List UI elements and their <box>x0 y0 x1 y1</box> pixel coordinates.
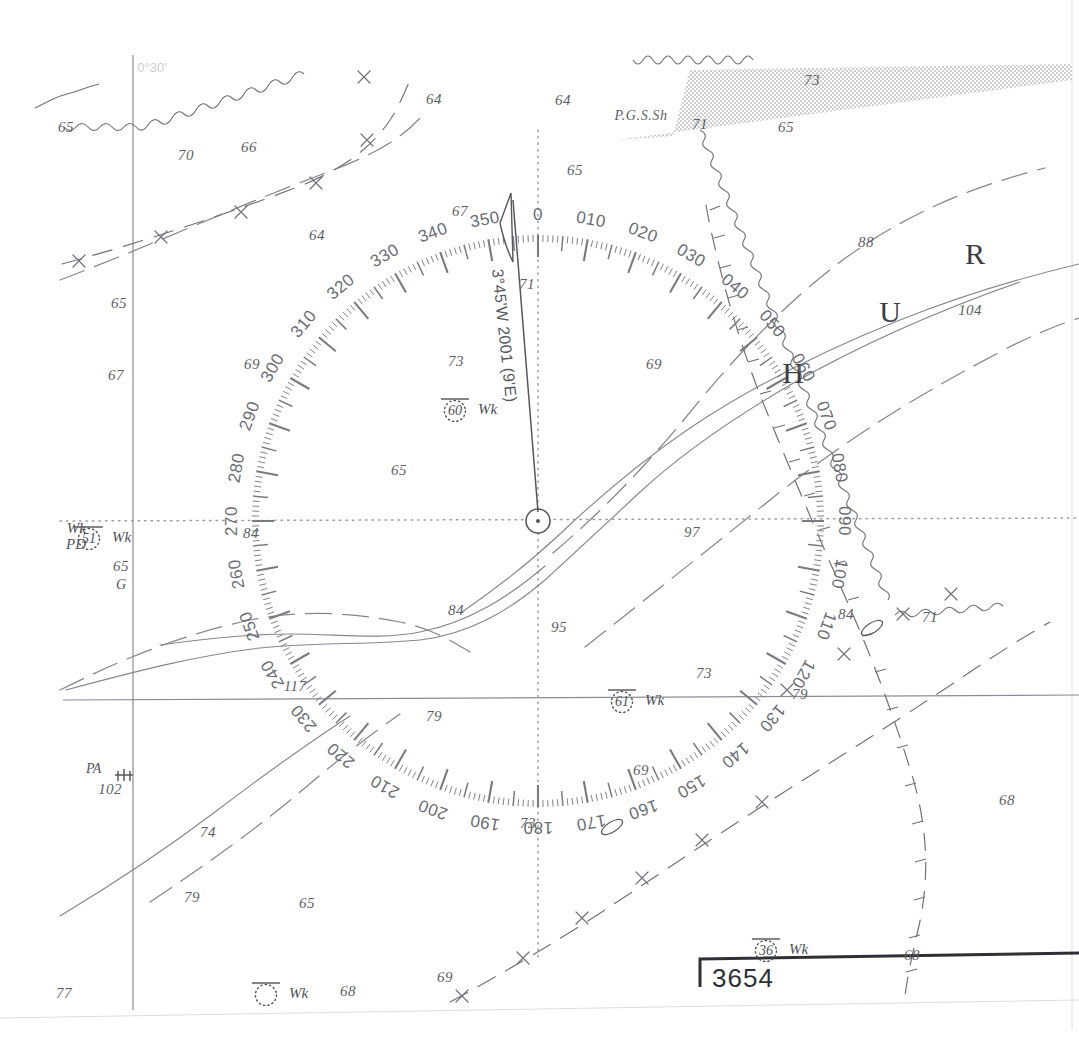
wreck-symbol: Wk <box>246 980 308 1006</box>
solid-depth-contours <box>60 264 1079 916</box>
sounding-depth: 95 <box>551 619 567 636</box>
sounding-depth: 84 <box>838 606 854 623</box>
nautical-chart-canvas: H U R P.G.S.Sh 0°30' 3°45'W 2001 (9'E) P… <box>0 0 1079 1063</box>
chart-vector-layer <box>0 0 1079 1063</box>
wreck-symbol: 61Wk <box>602 687 664 713</box>
sounding-depth: 73 <box>804 72 820 89</box>
sounding-depth: 65 <box>567 162 583 179</box>
rose-degree-label: 090 <box>834 506 854 536</box>
sounding-depth: 73 <box>448 353 464 370</box>
sounding-depth: 71 <box>922 609 938 626</box>
pa-obstruction-symbol <box>115 769 133 781</box>
wreck-depth-circle-icon: 51 <box>69 524 109 550</box>
sounding-depth: 64 <box>555 92 571 109</box>
wreck-depth-circle-icon <box>246 980 286 1006</box>
sounding-depth: 69 <box>633 762 649 779</box>
wreck-label: Wk <box>789 941 808 958</box>
wreck-label: Wk <box>478 401 497 418</box>
sounding-depth: 69 <box>646 356 662 373</box>
sounding-depth: 88 <box>858 234 874 251</box>
sounding-depth: 65 <box>111 295 127 312</box>
letter-mark-u: U <box>879 295 901 329</box>
sounding-depth: 65 <box>391 462 407 479</box>
depth-contours <box>60 118 1079 902</box>
sounding-depth: 68 <box>904 947 920 964</box>
submarine-cable <box>35 56 1003 617</box>
seabed-composition-label: P.G.S.Sh <box>614 108 667 124</box>
letter-mark-r: R <box>965 237 985 271</box>
sounding-depth: 74 <box>200 824 216 841</box>
wreck-depth-circle-icon: 60 <box>435 396 475 422</box>
sounding-depth: 71 <box>519 276 535 293</box>
wreck-depth-value: 36 <box>759 943 773 959</box>
sounding-depth: 68 <box>340 983 356 1000</box>
wreck-depth-circle-icon: 36 <box>746 936 786 962</box>
pa-text: PA <box>86 761 101 776</box>
chart-number-label: 3654 <box>712 963 774 994</box>
wreck-depth-value: 61 <box>615 694 629 710</box>
wreck-label: Wk <box>112 529 131 546</box>
rose-degree-label: 270 <box>222 506 242 536</box>
sounding-depth: 77 <box>56 985 72 1002</box>
sounding-depth: 73 <box>696 665 712 682</box>
sounding-depth: 68 <box>999 792 1015 809</box>
shaded-shoal-area <box>616 64 1072 140</box>
sounding-depth: 64 <box>309 227 325 244</box>
sounding-depth: 65 <box>113 558 129 575</box>
sounding-depth: 71 <box>692 116 708 133</box>
bottom-quality-g-label: G <box>116 578 126 593</box>
wreck-label: Wk <box>289 985 308 1002</box>
wreck-label: Wk <box>645 692 664 709</box>
g-text: G <box>116 577 126 592</box>
sounding-depth: 79 <box>184 889 200 906</box>
sounding-depth: 70 <box>178 147 194 164</box>
sounding-depth: 84 <box>243 525 259 542</box>
wreck-depth-value: 60 <box>448 403 462 419</box>
rose-degree-label: 0 <box>533 205 543 225</box>
sounding-depth: 66 <box>241 139 257 156</box>
sounding-depth: 97 <box>684 524 700 541</box>
sounding-depth: 65 <box>778 119 794 136</box>
sounding-depth: 79 <box>426 708 442 725</box>
wreck-symbol: 60Wk <box>435 396 497 422</box>
rose-center-marker <box>526 509 550 533</box>
sounding-depth: 84 <box>448 602 464 619</box>
sounding-depth: 102 <box>98 781 122 798</box>
wreck-symbol: 36Wk <box>746 936 808 962</box>
pa-position-approximate-label: PA <box>86 762 101 777</box>
graticule-label-top-left: 0°30' <box>137 60 166 75</box>
rose-degree-label: 180 <box>523 817 553 837</box>
wreck-depth-circle-icon: 61 <box>602 687 642 713</box>
sounding-depth: 69 <box>244 356 260 373</box>
sounding-depth: 65 <box>299 895 315 912</box>
sounding-depth: 67 <box>108 367 124 384</box>
sounding-depth: 69 <box>437 969 453 986</box>
sounding-depth: 67 <box>452 203 468 220</box>
wreck-symbol: 51Wk <box>69 524 131 550</box>
graticule-lines <box>63 55 1079 1010</box>
wreck-depth-value: 51 <box>82 531 96 547</box>
cable-route-crosses <box>62 71 1050 1002</box>
sounding-depth: 64 <box>426 91 442 108</box>
sounding-depth: 65 <box>58 119 74 136</box>
sounding-depth: 104 <box>958 302 982 319</box>
